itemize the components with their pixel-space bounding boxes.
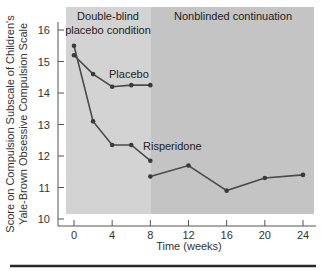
series-continuation-marker	[263, 176, 268, 181]
region-nonblinded	[150, 7, 314, 214]
y-tick-label: 13	[38, 119, 50, 131]
series-label-placebo: Placebo	[109, 68, 149, 80]
x-tick-label: 8	[147, 229, 153, 241]
series-placebo-marker	[91, 72, 96, 77]
series-continuation-marker	[301, 173, 306, 178]
x-ticks: 04812162024	[71, 220, 309, 241]
y-axis-title-line2: Yale-Brown Obsessive Compulsion Scale	[17, 23, 29, 225]
series-risperidone-marker	[110, 143, 115, 148]
series-continuation-marker	[148, 174, 153, 179]
y-tick-label: 12	[38, 150, 50, 162]
x-tick-label: 24	[297, 229, 309, 241]
y-ticks: 10111213141516	[38, 24, 64, 225]
series-risperidone-marker	[91, 119, 96, 124]
region-label-nonblinded: Nonblinded continuation	[174, 10, 292, 22]
y-tick-label: 14	[38, 87, 50, 99]
region-label-double-blind-line2: placebo condition	[65, 24, 151, 36]
series-risperidone-marker	[148, 158, 153, 163]
x-tick-label: 20	[259, 229, 271, 241]
y-tick-label: 11	[39, 182, 50, 194]
y-tick-label: 16	[38, 24, 50, 36]
region-double-blind	[66, 7, 150, 214]
series-placebo-marker	[148, 83, 153, 88]
series-placebo-marker	[129, 83, 134, 88]
series-continuation-marker	[186, 163, 191, 168]
x-axis-title: Time (weeks)	[156, 240, 222, 252]
x-tick-label: 0	[71, 229, 77, 241]
x-tick-label: 4	[109, 229, 115, 241]
series-risperidone-marker	[129, 143, 134, 148]
series-continuation-marker	[224, 188, 229, 193]
series-placebo-marker	[110, 84, 115, 89]
x-tick-label: 16	[221, 229, 233, 241]
shaded-regions	[66, 7, 314, 214]
series-label-risperidone: Risperidone	[143, 140, 202, 152]
region-label-double-blind-line1: Double-blind	[77, 10, 139, 22]
chart-figure: 10111213141516 04812162024 Double-blind …	[0, 0, 325, 271]
y-axis-title-line1: Score on Compulsion Subscale of Children…	[4, 15, 16, 233]
series-risperidone-marker	[72, 43, 77, 48]
y-tick-label: 10	[38, 213, 50, 225]
y-tick-label: 15	[38, 56, 50, 68]
